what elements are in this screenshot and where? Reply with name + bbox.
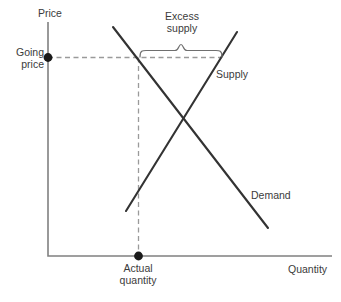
excess-supply-label: Excesssupply — [142, 10, 222, 34]
excess-supply-label-line1: Excess — [165, 10, 199, 22]
supply-demand-chart: Price Goingprice Excesssupply Supply Dem… — [0, 0, 341, 302]
y-axis-label: Price — [38, 7, 62, 19]
demand-curve — [113, 27, 268, 228]
excess-supply-label-line2: supply — [167, 22, 197, 34]
going-price-marker-dot — [44, 53, 53, 62]
going-price-label: Goingprice — [0, 46, 44, 70]
actual-quantity-marker-dot — [134, 252, 143, 261]
supply-curve-label: Supply — [216, 68, 248, 80]
actual-quantity-label-line2: quantity — [120, 274, 157, 286]
going-price-label-line2: price — [21, 58, 44, 70]
excess-supply-brace — [140, 45, 222, 58]
actual-quantity-label-line1: Actual — [123, 262, 152, 274]
actual-quantity-label: Actualquantity — [100, 262, 176, 286]
supply-curve — [126, 32, 237, 211]
demand-curve-label: Demand — [251, 189, 291, 201]
going-price-label-line1: Going — [16, 46, 44, 58]
x-axis-label: Quantity — [288, 263, 327, 275]
chart-canvas — [0, 0, 341, 302]
